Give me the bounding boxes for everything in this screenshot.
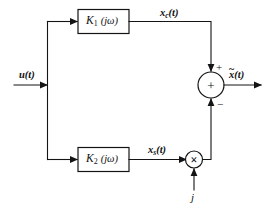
arrowhead-output: [254, 82, 262, 89]
arrowhead-j-input: [191, 168, 198, 176]
output-signal-base-wrap: ~x: [229, 70, 234, 81]
output-signal-accent: ~: [229, 64, 234, 74]
wire-multiplier-to-sum: [202, 98, 214, 160]
wire-branch-to-k1: [48, 18, 79, 25]
arrowhead-sum-bottom-input: [208, 98, 215, 106]
output-signal-label: ~x(t): [229, 70, 244, 81]
arrowhead-k1-input: [70, 18, 78, 25]
diagram-vector-layer: [0, 0, 269, 207]
wire-input-to-branch: [14, 82, 48, 89]
wire-k1-to-sum: [129, 22, 214, 73]
multiplier-input-j-label: j: [191, 192, 194, 203]
block-k2-label: K2(jω): [86, 153, 118, 166]
signal-xs-suffix: (t): [156, 144, 166, 155]
block-k1-subscript: 1: [94, 19, 98, 28]
signal-xc-suffix: (t): [169, 7, 179, 18]
block-k1-label: K1(jω): [86, 15, 118, 28]
wire-sum-to-output: [224, 82, 262, 89]
block-k2-subscript: 2: [94, 157, 98, 166]
arrowhead-input: [40, 82, 48, 89]
signal-xc-label: xc(t): [160, 8, 179, 20]
block-k1-argument: (jω): [101, 15, 118, 26]
input-signal-label: u(t): [19, 70, 35, 81]
block-k1-gain: K: [86, 14, 94, 26]
arrowhead-k2-input: [70, 156, 78, 163]
wire-k2-to-multiplier: [129, 156, 187, 163]
summing-junction-glyph: +: [205, 79, 217, 92]
block-diagram-canvas: K1(jω) K2(jω) u(t) xc(t) xs(t) ~x(t) j +…: [0, 0, 269, 207]
output-signal-suffix: (t): [234, 69, 244, 80]
wire-j-to-multiplier: [191, 168, 198, 190]
wire-branch-to-k2: [48, 156, 79, 163]
summing-junction-bottom-sign: −: [217, 99, 223, 110]
summing-junction-top-sign: +: [216, 62, 222, 73]
signal-xs-label: xs(t): [148, 145, 166, 157]
block-k2-argument: (jω): [101, 153, 118, 164]
multiplier-glyph: ×: [188, 154, 200, 166]
arrowhead-sum-top-input: [208, 64, 215, 72]
block-k2-gain: K: [86, 152, 94, 164]
